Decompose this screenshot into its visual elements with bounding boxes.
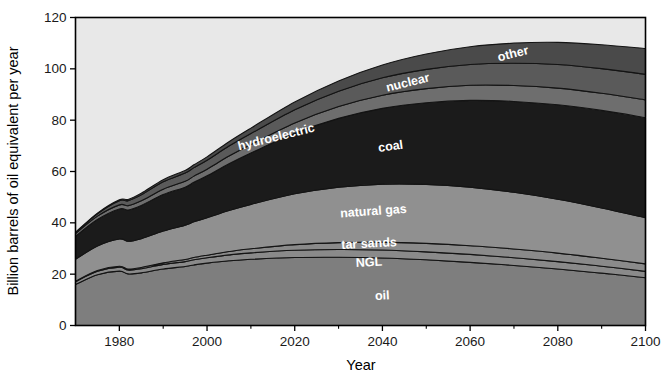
y-tick-label: 120 xyxy=(44,10,67,25)
chart-root: 1980200020202040206020802100 02040608010… xyxy=(0,0,668,377)
x-axis-title: Year xyxy=(346,357,375,373)
x-tick-label: 2020 xyxy=(280,334,310,349)
x-tick-label: 2000 xyxy=(192,334,222,349)
band-label-tar-sands: tar sands xyxy=(341,235,397,252)
stacked-area-chart: 1980200020202040206020802100 02040608010… xyxy=(0,0,668,377)
y-tick-label: 60 xyxy=(51,164,66,179)
x-tick-label: 2100 xyxy=(630,334,660,349)
x-tick-label: 2080 xyxy=(543,334,573,349)
y-tick-label: 100 xyxy=(44,61,67,76)
y-tick-label: 40 xyxy=(51,215,66,230)
y-axis-title: Billion barrels of oil equivalent per ye… xyxy=(5,46,21,295)
y-tick-label: 20 xyxy=(51,267,66,282)
band-label-NGL: NGL xyxy=(356,255,383,270)
y-tick-label: 80 xyxy=(51,113,66,128)
band-label-oil: oil xyxy=(375,288,390,303)
x-tick-label: 1980 xyxy=(104,334,134,349)
x-tick-label: 2040 xyxy=(367,334,397,349)
y-tick-label: 0 xyxy=(59,318,67,333)
x-tick-label: 2060 xyxy=(455,334,485,349)
